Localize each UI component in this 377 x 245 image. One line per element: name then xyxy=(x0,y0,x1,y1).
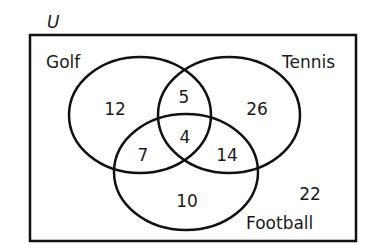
region-outside: 22 xyxy=(299,184,321,204)
region-golf-tennis: 5 xyxy=(179,87,190,107)
golf-label: Golf xyxy=(46,52,81,72)
region-tennis-only: 26 xyxy=(246,99,268,119)
region-golf-only: 12 xyxy=(104,99,126,119)
region-tennis-football: 14 xyxy=(216,145,238,165)
region-golf-football: 7 xyxy=(138,145,149,165)
region-all-three: 4 xyxy=(180,127,191,147)
universe-label: U xyxy=(47,12,60,32)
venn-diagram: U Golf Tennis Football 12 5 26 4 7 14 10… xyxy=(0,0,377,245)
football-label: Football xyxy=(246,213,313,233)
tennis-label: Tennis xyxy=(281,52,335,72)
region-football-only: 10 xyxy=(176,191,198,211)
